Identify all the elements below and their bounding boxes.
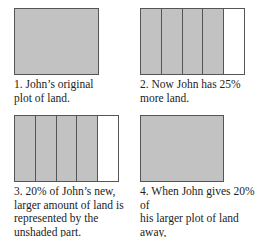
shaded-column <box>162 9 183 74</box>
original-plot <box>14 8 99 75</box>
unshaded-column <box>224 9 244 74</box>
caption-2: 2. Now John has 25% more land. <box>140 78 265 105</box>
enlarged-plot <box>140 8 245 75</box>
shaded-column <box>57 116 78 181</box>
shaded-column <box>77 116 98 181</box>
caption-1: 1. John’s original plot of land. <box>14 78 134 105</box>
unshaded-column <box>98 116 118 181</box>
caption-4: 4. When John gives 20% of his larger plo… <box>140 185 266 237</box>
caption-3: 3. 20% of John’s new, larger amount of l… <box>14 185 139 237</box>
final-plot <box>140 115 224 182</box>
shaded-column <box>36 116 57 181</box>
shaded-column <box>203 9 224 74</box>
shaded-column <box>141 9 162 74</box>
shaded-column <box>15 116 36 181</box>
shaded-column <box>183 9 204 74</box>
twenty-percent-plot <box>14 115 119 182</box>
